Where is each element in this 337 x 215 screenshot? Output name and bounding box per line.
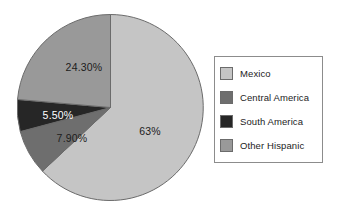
legend-swatch-icon-central-america: [220, 91, 233, 104]
legend-item-south-america[interactable]: South America: [220, 110, 322, 134]
pie-label-other-hispanic: 24.30%: [66, 61, 103, 73]
pie-label-mexico: 63%: [139, 125, 161, 137]
pie-chart-svg: 63% 7.90% 5.50% 24.30%: [17, 14, 204, 201]
legend-label-other-hispanic: Other Hispanic: [240, 140, 304, 151]
pie-label-south-america: 5.50%: [43, 109, 74, 121]
legend-swatch-icon-mexico: [220, 67, 233, 80]
legend-label-south-america: South America: [240, 116, 303, 127]
pie-chart-plot-area: 63% 7.90% 5.50% 24.30%: [17, 14, 204, 201]
pie-chart-figure: 63% 7.90% 5.50% 24.30% Mexico Central Am…: [0, 0, 337, 215]
legend-swatch-icon-south-america: [220, 115, 233, 128]
pie-label-central-america: 7.90%: [57, 132, 88, 144]
legend-swatch-icon-other-hispanic: [220, 139, 233, 152]
legend-label-mexico: Mexico: [240, 68, 271, 79]
legend-item-other-hispanic[interactable]: Other Hispanic: [220, 134, 322, 158]
legend-item-mexico[interactable]: Mexico: [220, 62, 322, 86]
legend-item-central-america[interactable]: Central America: [220, 86, 322, 110]
chart-legend: Mexico Central America South America Oth…: [214, 56, 323, 163]
legend-label-central-america: Central America: [240, 92, 309, 103]
legend-list: Mexico Central America South America Oth…: [215, 57, 322, 162]
